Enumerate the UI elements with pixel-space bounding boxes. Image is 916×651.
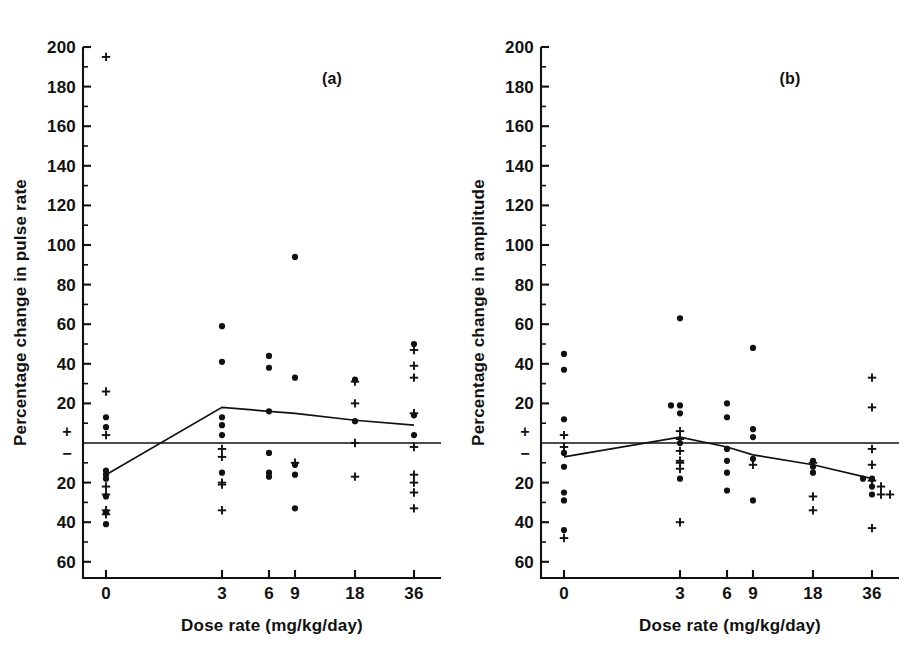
data-point-plus xyxy=(676,447,684,455)
data-point-plus xyxy=(218,506,226,514)
data-point-plus xyxy=(102,482,110,490)
data-point-plus xyxy=(560,431,568,439)
x-tick-label: 0 xyxy=(101,584,111,603)
data-point-dot xyxy=(219,422,225,428)
trend-line xyxy=(106,407,414,474)
y-axis-ticks: 20018016014012010080604020204060 xyxy=(47,38,91,572)
data-point-dot xyxy=(352,418,358,424)
data-point-dot xyxy=(869,491,875,497)
zero-minus-label: − xyxy=(520,445,530,462)
data-point-dot xyxy=(292,472,298,478)
y-tick-label: 80 xyxy=(515,276,534,295)
axes xyxy=(541,47,899,578)
y-tick-label: 140 xyxy=(505,157,534,176)
y-tick-label: 180 xyxy=(505,78,534,97)
data-point-plus xyxy=(410,470,418,478)
data-point-plus xyxy=(560,443,568,451)
data-point-dot xyxy=(292,254,298,260)
data-point-plus xyxy=(102,431,110,439)
x-axis-title: Dose rate (mg/kg/day) xyxy=(181,616,363,635)
chart-panel-a: 20018016014012010080604020204060+−036918… xyxy=(0,0,458,651)
y-axis-title: Percentage change in pulse rate xyxy=(11,179,30,446)
chart-panel-b: 20018016014012010080604020204060+−036918… xyxy=(458,0,916,651)
zero-sign-labels: +− xyxy=(520,423,530,462)
data-point-plus xyxy=(809,506,817,514)
panel-label: (a) xyxy=(322,70,342,87)
data-point-dot xyxy=(724,446,730,452)
y-tick-label: 140 xyxy=(47,157,76,176)
data-point-dot xyxy=(750,497,756,503)
data-point-dot xyxy=(103,521,109,527)
x-tick-label: 6 xyxy=(722,584,732,603)
data-point-plus xyxy=(868,445,876,453)
data-point-dot xyxy=(561,489,567,495)
x-axis-ticks: 03691836 xyxy=(101,570,423,603)
data-point-dot xyxy=(219,414,225,420)
data-point-dot xyxy=(219,323,225,329)
data-point-dot xyxy=(668,402,674,408)
data-point-dot xyxy=(677,402,683,408)
data-point-dot xyxy=(266,353,272,359)
data-point-dot xyxy=(750,426,756,432)
data-point-dot xyxy=(561,351,567,357)
x-tick-label: 3 xyxy=(217,584,227,603)
y-tick-label: 200 xyxy=(47,38,76,57)
data-point-plus xyxy=(877,490,885,498)
y-tick-label: 40 xyxy=(515,355,534,374)
data-point-plus xyxy=(868,403,876,411)
series-dot xyxy=(561,315,875,533)
data-point-dot xyxy=(103,414,109,420)
data-point-plus xyxy=(410,488,418,496)
data-point-plus xyxy=(351,472,359,480)
data-point-plus xyxy=(410,504,418,512)
data-point-plus xyxy=(410,362,418,370)
y-tick-label: 20 xyxy=(515,474,534,493)
data-point-dot xyxy=(219,432,225,438)
data-point-dot xyxy=(810,470,816,476)
data-point-plus xyxy=(877,482,885,490)
data-point-plus xyxy=(676,465,684,473)
data-point-plus xyxy=(218,453,226,461)
data-point-dot xyxy=(677,410,683,416)
data-point-plus xyxy=(410,443,418,451)
axes xyxy=(83,47,441,578)
y-tick-label: 80 xyxy=(57,276,76,295)
zero-sign-labels: +− xyxy=(62,423,72,462)
data-point-dot xyxy=(561,527,567,533)
y-tick-label: 60 xyxy=(515,553,534,572)
data-point-dot xyxy=(750,434,756,440)
zero-minus-label: − xyxy=(62,445,72,462)
data-point-plus xyxy=(868,461,876,469)
data-point-dot xyxy=(103,476,109,482)
x-tick-label: 36 xyxy=(404,584,423,603)
y-axis-title: Percentage change in amplitude xyxy=(469,179,488,446)
y-tick-label: 60 xyxy=(57,315,76,334)
data-point-plus xyxy=(676,427,684,435)
data-point-dot xyxy=(561,416,567,422)
y-tick-label: 100 xyxy=(505,236,534,255)
x-tick-label: 9 xyxy=(290,584,300,603)
data-point-dot xyxy=(724,487,730,493)
x-tick-label: 3 xyxy=(675,584,685,603)
data-point-dot xyxy=(266,365,272,371)
y-tick-label: 100 xyxy=(47,236,76,255)
y-tick-label: 20 xyxy=(57,394,76,413)
data-point-dot xyxy=(561,464,567,470)
data-point-dot xyxy=(411,432,417,438)
y-tick-label: 160 xyxy=(47,117,76,136)
y-tick-label: 160 xyxy=(505,117,534,136)
zero-plus-label: + xyxy=(62,423,72,440)
data-point-plus xyxy=(102,53,110,61)
data-point-plus xyxy=(410,373,418,381)
x-axis-ticks: 03691836 xyxy=(559,570,881,603)
data-point-plus xyxy=(560,534,568,542)
data-point-plus xyxy=(410,478,418,486)
data-point-dot xyxy=(266,474,272,480)
data-point-dot xyxy=(724,414,730,420)
data-point-dot xyxy=(292,375,298,381)
data-point-plus xyxy=(886,490,894,498)
data-point-plus xyxy=(809,492,817,500)
data-point-plus xyxy=(749,461,757,469)
data-point-plus xyxy=(351,399,359,407)
data-point-plus xyxy=(410,346,418,354)
